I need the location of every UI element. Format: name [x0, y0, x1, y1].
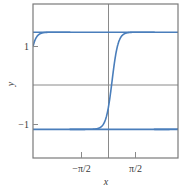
y-tick-label-neg-one: −1 [18, 119, 29, 130]
figure-container: −π/2 π/2 1 −1 x y [0, 0, 192, 188]
plot-background [33, 4, 178, 158]
y-axis-title: y [5, 81, 16, 87]
plot-canvas: −π/2 π/2 1 −1 x y [0, 0, 192, 188]
y-tick-label-one: 1 [24, 41, 29, 52]
x-axis-title: x [103, 176, 109, 187]
x-tick-label-pi-half: π/2 [129, 163, 142, 174]
x-tick-label-neg-pi-half: −π/2 [72, 163, 90, 174]
